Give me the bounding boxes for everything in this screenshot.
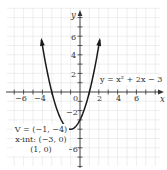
vertex-label: V = (−1, −4) [14, 125, 67, 134]
y-axis-arrow-icon [78, 10, 83, 16]
x-tick-label: −4 [34, 94, 46, 103]
origin-label: 0 [73, 94, 78, 103]
x-tick-label: 6 [134, 94, 139, 103]
x-intercept-label-2: (1, 0) [30, 145, 52, 154]
x-axis-label: x [160, 94, 165, 104]
x-tick-label: 4 [116, 94, 121, 103]
y-tick-label: 2 [71, 70, 76, 79]
equation-label: y = x² + 2x − 3 [99, 75, 162, 84]
y-tick-label: 6 [71, 33, 76, 42]
y-axis-label: y [70, 10, 76, 20]
y-tick-label: 4 [71, 51, 76, 60]
x-intercept-label: x-int: (−3, 0) [15, 135, 66, 144]
x-tick-label: 2 [97, 94, 102, 103]
parabola-graph: x y 0 −6 −4 2 4 6 6 4 2 −2 −6 y = x² + 2… [0, 0, 167, 170]
y-tick-label: −2 [66, 108, 78, 117]
x-tick-label: −6 [15, 94, 27, 103]
